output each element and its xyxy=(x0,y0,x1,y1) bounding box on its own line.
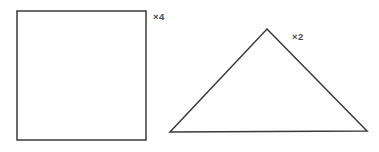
shapes-diagram xyxy=(0,0,379,152)
square-shape xyxy=(17,11,146,140)
triangle-multiplier-label: ×2 xyxy=(292,32,304,42)
figure-canvas: ×4 ×2 xyxy=(0,0,379,152)
square-multiplier-label: ×4 xyxy=(153,12,165,22)
triangle-shape xyxy=(170,29,367,132)
